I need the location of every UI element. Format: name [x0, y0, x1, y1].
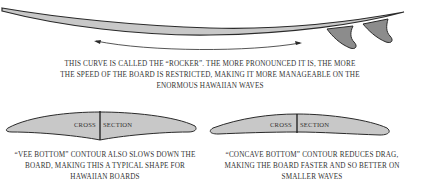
fin-front — [327, 26, 356, 49]
vee-bottom-caption: “VEE BOTTOM” CONTOUR ALSO SLOWS DOWN THE… — [10, 150, 200, 183]
vee-bottom-cross-section — [6, 112, 196, 140]
concave-bottom-caption: “CONCAVE BOTTOM” CONTOUR REDUCES DRAG, M… — [212, 150, 412, 183]
concave-section-label: SECTION — [300, 121, 329, 128]
arrowhead-right-icon — [295, 41, 302, 45]
vee-section-label: SECTION — [103, 121, 132, 128]
rocker-caption: THIS CURVE IS CALLED THE “ROCKER”. THE M… — [60, 59, 360, 92]
rocker-arrow — [96, 41, 300, 50]
concave-cross-label: CROSS — [270, 121, 292, 128]
fin-rear — [363, 19, 392, 43]
vee-cross-label: CROSS — [74, 121, 96, 128]
arrowhead-left-icon — [94, 40, 101, 44]
